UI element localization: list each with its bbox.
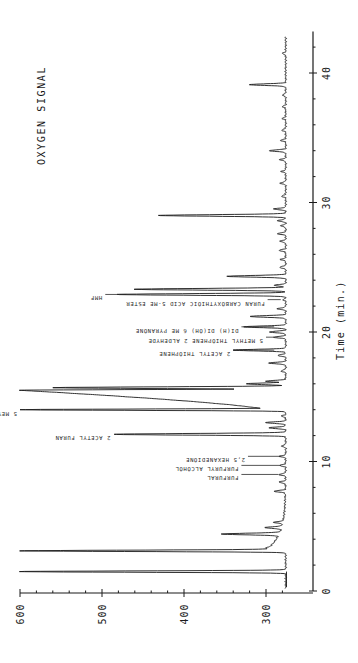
peak-annotation: FURFURYL ALCOHOL [175,466,239,472]
peak-annotation: HMF [90,295,102,301]
signal-tick-label: 600 [15,603,26,624]
peak-annotation: FURAN CARBOXYTHIOIC ACID 5-ME ESTER [126,301,265,307]
signal-tick-label: 500 [97,603,108,624]
peak-annotation: 5 MEYHYL FURFURAL [0,411,17,417]
time-tick-label: 0 [321,587,332,594]
signal-line [19,37,286,589]
peak-annotation: FURFURAL [207,475,239,481]
peak-annotation: 2,5 HEXANEDIONE [185,457,245,463]
peak-annotations: FURFURALFURFURYL ALCOHOL2,5 HEXANEDIONE2… [0,294,281,481]
signal-trace [19,37,286,589]
signal-tick-label: 300 [261,603,272,624]
time-tick-label: 40 [321,66,332,80]
time-axis-label: Time (min.) [335,281,346,360]
time-tick-label: 20 [321,325,332,339]
time-tick-label: 30 [321,195,332,209]
peak-annotation: 2 ACETYL THIOPHENE [159,351,230,357]
peak-annotation: 5 METHYL THIOPHENE 2 ALDEHYDE [148,338,263,344]
peak-annotation: DI(H) DI(OH) 6 ME PYRANONE [135,328,238,334]
peak-annotation: 2 ACETYL FURAN [55,435,111,441]
signal-tick-label: 400 [179,603,190,624]
chromatogram-chart: FURFURALFURFURYL ALCOHOL2,5 HEXANEDIONE2… [0,0,358,663]
chart-title: OXYGEN SIGNAL [36,66,47,165]
time-tick-label: 10 [321,454,332,468]
